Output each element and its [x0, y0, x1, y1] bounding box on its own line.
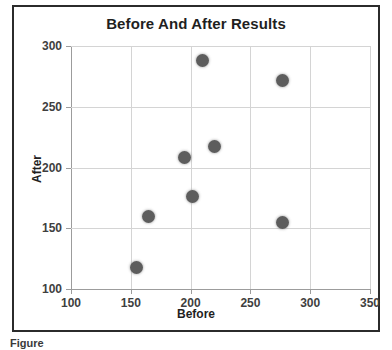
- data-point: [130, 261, 143, 274]
- chart-title: Before And After Results: [14, 15, 378, 32]
- y-axis-tick-label: 300: [42, 39, 62, 53]
- x-axis-tick-label: 350: [360, 296, 380, 310]
- x-axis-line: [71, 289, 371, 290]
- gridline-horizontal: [71, 228, 370, 229]
- data-point: [186, 190, 199, 203]
- x-axis-tick-label: 100: [61, 296, 81, 310]
- figure-caption: Figure: [10, 336, 385, 350]
- y-axis-tick-label: 250: [42, 100, 62, 114]
- gridline-horizontal: [71, 168, 370, 169]
- y-axis-tick: [66, 228, 71, 229]
- y-axis-tick-label: 150: [42, 221, 62, 235]
- gridline-horizontal: [71, 107, 370, 108]
- x-axis-tick-label: 200: [181, 296, 201, 310]
- data-point: [276, 74, 289, 87]
- plot-area: 100150200250300350100150200250300: [71, 46, 370, 289]
- y-axis-tick: [66, 289, 71, 290]
- x-axis-tick-label: 250: [240, 296, 260, 310]
- x-axis-tick: [191, 289, 192, 294]
- x-axis-tick: [370, 289, 371, 294]
- data-point: [276, 216, 289, 229]
- y-axis-tick: [66, 46, 71, 47]
- gridline-horizontal: [71, 46, 370, 47]
- y-axis-tick-label: 100: [42, 282, 62, 296]
- x-axis-tick: [131, 289, 132, 294]
- x-axis-tick: [250, 289, 251, 294]
- y-axis-tick: [66, 168, 71, 169]
- data-point: [196, 54, 209, 67]
- gridline-vertical: [370, 46, 371, 289]
- x-axis-tick-label: 150: [121, 296, 141, 310]
- data-point: [178, 151, 191, 164]
- y-axis-tick-label: 200: [42, 161, 62, 175]
- x-axis-tick: [310, 289, 311, 294]
- y-axis-tick: [66, 107, 71, 108]
- data-point: [208, 140, 221, 153]
- chart-frame: Before And After Results After Before 10…: [12, 5, 380, 332]
- figure-root: Before And After Results After Before 10…: [0, 0, 392, 350]
- x-axis-tick: [71, 289, 72, 294]
- x-axis-tick-label: 300: [300, 296, 320, 310]
- data-point: [142, 210, 155, 223]
